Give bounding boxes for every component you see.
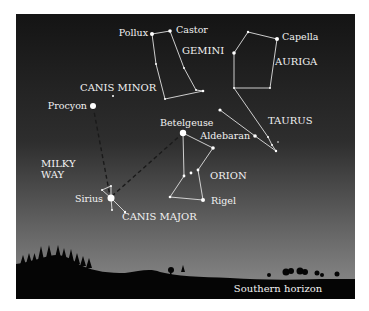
- star-betelgeuse: [180, 130, 186, 136]
- star-orion-2: [211, 146, 215, 150]
- star-capella: [275, 37, 279, 41]
- star-canis-major-3: [110, 185, 112, 187]
- star-auriga-3: [232, 51, 236, 55]
- star-orion-belt-3: [183, 175, 186, 178]
- star-auriga-2: [247, 31, 249, 33]
- star-orion-belt-1: [197, 169, 200, 172]
- star-gemini-4: [183, 67, 185, 69]
- star-taurus-5: [275, 150, 277, 152]
- star-taurus-4: [271, 144, 273, 146]
- label-canis-major: CANIS MAJOR: [122, 211, 197, 222]
- label-sirius: Sirius: [75, 193, 103, 204]
- label-auriga: AURIGA: [274, 56, 318, 67]
- label-taurus: TAURUS: [268, 115, 313, 126]
- star-rigel: [201, 198, 205, 202]
- label-canis-minor: CANIS MINOR: [80, 82, 157, 93]
- horizon-label: Southern horizon: [234, 283, 323, 294]
- star-procyon: [90, 103, 96, 109]
- star-canis-minor-2: [112, 95, 114, 97]
- star-pollux: [150, 32, 154, 36]
- label-orion: ORION: [210, 170, 247, 181]
- star-aldebaran: [253, 134, 257, 138]
- star-gemini-3: [155, 63, 157, 65]
- star-orion-6: [169, 196, 172, 199]
- star-sirius: [108, 195, 115, 202]
- label-betelgeuse: Betelgeuse: [160, 117, 214, 128]
- label-milky: MILKY: [41, 158, 76, 169]
- label-castor: Castor: [176, 24, 208, 35]
- label-aldebaran: Aldebaran: [199, 130, 250, 141]
- label-pollux: Pollux: [119, 27, 149, 38]
- star-taurus-1: [218, 108, 221, 111]
- star-taurus-3: [267, 136, 269, 138]
- star-taurus-6: [277, 141, 279, 143]
- label-rigel: Rigel: [211, 195, 236, 206]
- label-procyon: Procyon: [48, 100, 87, 111]
- star-canis-major-4: [111, 209, 113, 211]
- label-way: WAY: [41, 169, 65, 180]
- star-castor: [168, 29, 172, 33]
- star-gemini-5: [195, 89, 197, 91]
- star-gemini-7: [164, 98, 166, 100]
- star-auriga-4: [233, 87, 235, 89]
- star-chart: Pollux Castor Capella Procyon Betelgeuse…: [0, 0, 369, 311]
- star-auriga-5: [269, 87, 271, 89]
- star-canis-major-2: [101, 189, 103, 191]
- label-capella: Capella: [282, 31, 319, 42]
- star-orion-belt-2: [190, 172, 193, 175]
- label-gemini: GEMINI: [182, 45, 224, 56]
- star-gemini-6: [202, 90, 205, 93]
